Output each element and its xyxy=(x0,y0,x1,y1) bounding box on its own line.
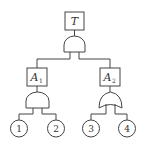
a1-label: A xyxy=(30,71,39,84)
fault-tree-diagram: T A 1 A 2 1 2 3 4 xyxy=(0,0,143,152)
a1-subscript: 1 xyxy=(39,77,43,84)
top-event: T xyxy=(65,12,84,30)
a2-subscript: 2 xyxy=(112,77,116,84)
basic-event-3: 3 xyxy=(83,120,100,137)
basic-event-1: 1 xyxy=(11,120,28,137)
connector xyxy=(42,114,56,120)
a1-and-gate-icon xyxy=(26,92,49,108)
basic-event-label: 1 xyxy=(16,124,22,134)
basic-event-label: 2 xyxy=(53,124,59,134)
a2-label: A xyxy=(103,71,112,84)
a2-or-gate-icon xyxy=(99,92,122,108)
intermediate-event-a1: A 1 xyxy=(27,68,47,86)
top-and-gate-icon xyxy=(64,36,85,52)
connector-left xyxy=(37,59,70,68)
basic-event-4: 4 xyxy=(119,120,136,137)
connector xyxy=(91,114,106,120)
intermediate-event-a2: A 2 xyxy=(100,68,120,86)
connector-right xyxy=(79,59,110,68)
basic-event-label: 3 xyxy=(88,124,94,134)
basic-event-label: 4 xyxy=(124,124,130,134)
connector xyxy=(115,114,127,120)
basic-event-2: 2 xyxy=(48,120,65,137)
connector xyxy=(19,114,33,120)
